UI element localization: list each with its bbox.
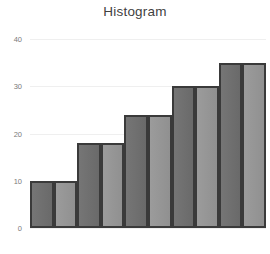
bar xyxy=(54,181,78,228)
bar xyxy=(172,86,196,228)
bar xyxy=(148,115,172,228)
bar xyxy=(101,143,125,228)
bar xyxy=(219,63,243,228)
bar xyxy=(30,181,54,228)
y-axis-tick-label: 20 xyxy=(0,129,22,138)
bar xyxy=(242,63,266,228)
plot-area: 010203040Item 1Item 2Item 3Item 4 xyxy=(30,39,266,228)
y-axis-tick-label: 10 xyxy=(0,176,22,185)
bar xyxy=(124,115,148,228)
y-axis-tick-label: 40 xyxy=(0,35,22,44)
gridline-y-0 xyxy=(30,228,266,229)
histogram-chart: Histogram 010203040Item 1Item 2Item 3Ite… xyxy=(0,0,270,254)
y-axis-tick-label: 30 xyxy=(0,82,22,91)
chart-title: Histogram xyxy=(0,4,270,19)
y-axis-tick-label: 0 xyxy=(0,224,22,233)
bar xyxy=(77,143,101,228)
gridline-y-40 xyxy=(30,39,266,40)
bar xyxy=(195,86,219,228)
